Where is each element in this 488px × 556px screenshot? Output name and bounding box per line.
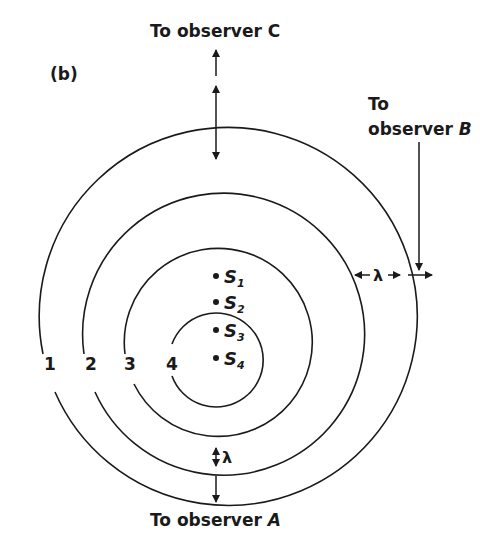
- svg-text:S1: S1: [224, 266, 245, 290]
- source-s1: S1: [213, 266, 245, 290]
- observer-b-label-line1: To: [368, 94, 389, 114]
- wavefront-label-1: 1: [44, 354, 56, 374]
- source-s3: S3: [213, 320, 245, 344]
- lambda-label-bottom: λ: [222, 448, 232, 467]
- wavefront-label-4: 4: [166, 354, 178, 374]
- svg-text:S3: S3: [224, 320, 245, 344]
- observer-a-label: To observer A: [150, 510, 281, 530]
- observer-b-label-line2: observer B: [368, 119, 472, 139]
- observer-c-label: To observer C: [150, 21, 280, 41]
- svg-text:S2: S2: [224, 292, 245, 316]
- source-s4: S4: [213, 348, 245, 372]
- wavefront-label-3: 3: [124, 354, 136, 374]
- panel-label: (b): [50, 64, 78, 84]
- svg-text:S4: S4: [224, 348, 245, 372]
- doppler-wavefront-diagram: To observer C (b) To observer B To obser…: [0, 0, 488, 556]
- lambda-label-right: λ: [373, 266, 383, 285]
- wavefront-label-2: 2: [85, 354, 97, 374]
